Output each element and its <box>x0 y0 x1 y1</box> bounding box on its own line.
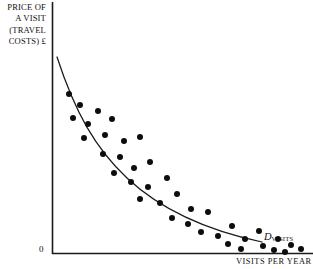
data-point <box>205 209 211 215</box>
data-point <box>174 191 180 197</box>
data-point <box>271 247 277 253</box>
data-point <box>81 135 87 141</box>
demand-curve <box>57 57 262 242</box>
data-point <box>137 134 143 140</box>
data-point <box>198 229 204 235</box>
data-point <box>164 175 170 181</box>
data-point <box>111 170 117 176</box>
data-point <box>137 196 143 202</box>
chart-figure: PRICE OF A VISIT (TRAVEL COSTS) £ 0 DVIS… <box>0 0 313 269</box>
data-point <box>298 246 304 252</box>
data-point <box>238 246 244 252</box>
data-point <box>131 165 137 171</box>
data-point <box>147 159 153 165</box>
data-point <box>157 200 163 206</box>
data-point <box>242 236 248 242</box>
data-point <box>260 243 266 249</box>
data-point <box>117 154 123 160</box>
data-point <box>288 242 294 248</box>
data-point <box>128 179 134 185</box>
data-point <box>121 138 127 144</box>
data-point <box>85 121 91 127</box>
data-point <box>188 206 194 212</box>
demand-curve-label: DVISITS <box>264 231 293 242</box>
scatter-plot-canvas <box>0 0 313 269</box>
data-point <box>100 151 106 157</box>
data-point <box>225 241 231 247</box>
data-point <box>70 115 76 121</box>
data-point <box>282 249 288 255</box>
data-point <box>215 233 221 239</box>
data-point <box>95 108 101 114</box>
data-point <box>169 215 175 221</box>
data-point <box>145 184 151 190</box>
data-point <box>185 221 191 227</box>
origin-tick-label: 0 <box>39 244 44 254</box>
data-point <box>256 228 262 234</box>
data-point <box>66 91 72 97</box>
data-point <box>229 223 235 229</box>
demand-curve-label-main: D <box>264 231 272 242</box>
data-point <box>77 102 83 108</box>
data-point <box>109 116 115 122</box>
x-axis-title: VISITS PER YEAR <box>236 257 312 266</box>
demand-curve-label-subscript: VISITS <box>272 235 294 242</box>
y-axis-title: PRICE OF A VISIT (TRAVEL COSTS) £ <box>0 2 46 48</box>
data-point <box>102 132 108 138</box>
